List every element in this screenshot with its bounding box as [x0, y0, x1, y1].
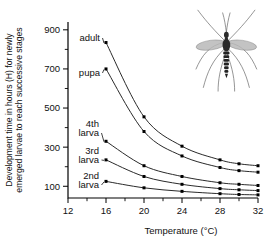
data-point-marker — [181, 145, 184, 148]
series-label-leader — [103, 69, 105, 73]
series-label: pupa — [79, 67, 101, 78]
data-point-marker — [143, 130, 146, 133]
data-point-marker — [219, 192, 222, 195]
data-point-marker — [219, 158, 222, 161]
data-point-marker — [143, 115, 146, 118]
data-point-marker — [181, 154, 184, 157]
data-point-marker — [181, 190, 184, 193]
data-point-marker — [143, 186, 146, 189]
data-point-marker — [238, 162, 241, 165]
series-label-leader — [102, 182, 105, 185]
y-tick-label: 700 — [44, 63, 60, 74]
series-label: larva — [78, 127, 99, 138]
series-label: larva — [78, 154, 99, 165]
y-axis-title-line2: emerged larvae to reach successive stage… — [14, 27, 24, 192]
data-point-marker — [105, 180, 108, 183]
x-tick-label: 12 — [63, 205, 74, 216]
data-point-marker — [181, 183, 184, 186]
x-tick-label: 16 — [101, 205, 112, 216]
x-tick-label: 28 — [215, 205, 226, 216]
data-point-marker — [143, 175, 146, 178]
data-point-marker — [181, 175, 184, 178]
data-point-marker — [257, 164, 260, 167]
data-point-marker — [105, 67, 108, 70]
x-axis-title: Temperature (°C) — [145, 225, 218, 236]
y-axis-title-line1: Development time in hours (H) for newly — [4, 33, 14, 187]
y-tick-label: 500 — [44, 102, 60, 113]
mosquito-illustration — [195, 10, 257, 91]
series-label-leader — [102, 133, 105, 142]
data-point-marker — [257, 184, 260, 187]
data-point-marker — [238, 169, 241, 172]
data-point-marker — [219, 187, 222, 190]
data-point-marker — [105, 41, 108, 44]
data-point-marker — [257, 189, 260, 192]
x-tick-label: 32 — [253, 205, 264, 216]
data-point-marker — [238, 193, 241, 196]
data-point-marker — [238, 188, 241, 191]
chart-figure: 100300500700900121620242832Temperature (… — [0, 0, 280, 251]
series-label: adult — [79, 32, 100, 43]
y-tick-label: 100 — [44, 181, 60, 192]
series-label-leader — [103, 38, 105, 43]
data-point-marker — [219, 166, 222, 169]
data-point-marker — [238, 183, 241, 186]
x-tick-label: 20 — [139, 205, 150, 216]
series-label: larva — [78, 179, 99, 190]
data-point-marker — [257, 193, 260, 196]
chart-svg: 100300500700900121620242832Temperature (… — [0, 0, 280, 251]
y-tick-label: 900 — [44, 24, 60, 35]
data-point-marker — [219, 181, 222, 184]
y-tick-label: 300 — [44, 142, 60, 153]
x-tick-label: 24 — [177, 205, 188, 216]
data-point-marker — [105, 158, 108, 161]
data-point-marker — [105, 140, 108, 143]
data-point-marker — [257, 171, 260, 174]
data-point-marker — [143, 164, 146, 167]
